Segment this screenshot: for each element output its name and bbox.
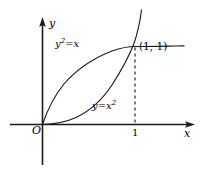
math-figure-container: y x O 1 (1, 1) y2=x y=x2: [0, 0, 203, 174]
intersection-point-label: (1, 1): [139, 40, 167, 52]
curve-label-y-equals-x-squared: y=x2: [92, 99, 116, 111]
graph-canvas: [0, 0, 203, 174]
x-axis-label: x: [184, 127, 190, 140]
axes-group: [10, 17, 195, 165]
origin-label: O: [32, 124, 41, 137]
curve-label-y-squared-equals-x: y2=x: [55, 37, 79, 49]
curve-label-lower-exponent: 2: [112, 99, 116, 107]
curve-y-squared-equals-x: [43, 46, 185, 125]
x-tick-label-1: 1: [132, 127, 138, 138]
curve-label-upper-tail: =x: [65, 38, 79, 49]
y-axis-label: y: [49, 17, 55, 30]
curve-label-lower-base: y=x: [92, 100, 112, 111]
